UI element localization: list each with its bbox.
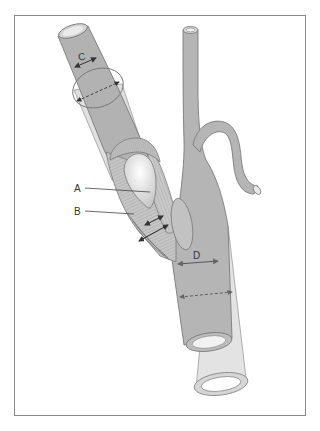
diagram-canvas: A B C D: [0, 0, 320, 431]
label-d: D: [193, 250, 200, 261]
label-a: A: [74, 183, 81, 194]
label-b: B: [74, 206, 81, 217]
